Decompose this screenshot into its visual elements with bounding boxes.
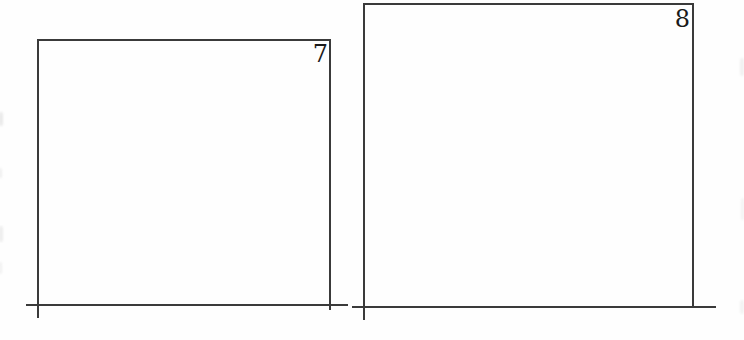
box7-number-label: 7 bbox=[304, 42, 328, 66]
worksheet-page: 7 8 bbox=[0, 0, 744, 340]
box7-border-left bbox=[37, 39, 39, 318]
scan-smudge bbox=[740, 58, 744, 76]
scan-smudge bbox=[0, 262, 2, 274]
scan-smudge bbox=[0, 226, 3, 242]
box8-border-bottom bbox=[352, 306, 716, 308]
box7-border-bottom bbox=[26, 304, 348, 306]
scan-smudge bbox=[0, 112, 3, 126]
box7-border-right bbox=[329, 39, 331, 310]
box8-border-left bbox=[363, 3, 365, 320]
scan-smudge bbox=[740, 300, 744, 314]
scan-smudge bbox=[0, 168, 2, 178]
box8-border-right bbox=[692, 3, 694, 308]
box7-border-top bbox=[37, 39, 331, 41]
box8-number-label: 8 bbox=[666, 7, 690, 31]
box8-border-top bbox=[363, 3, 694, 5]
